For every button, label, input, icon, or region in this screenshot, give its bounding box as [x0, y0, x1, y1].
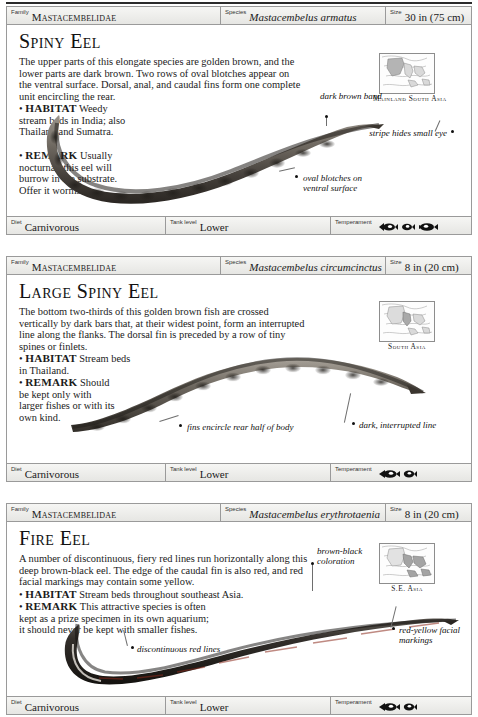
tank-level-label: Tank level	[170, 699, 197, 705]
entry-body: Large Spiny Eel The bottom two-thirds of…	[6, 275, 472, 463]
species-value: Mastacembelus circumcinctus	[249, 262, 381, 273]
habitat-block: • HABITAT Stream beds throughout southea…	[19, 589, 311, 601]
distribution-map	[379, 53, 435, 94]
temperament-icons	[378, 469, 417, 480]
species-cell: Species Mastacembelus circumcinctus	[221, 257, 386, 274]
entry-body: Fire Eel A number of discontinuous, fier…	[6, 522, 472, 696]
tank-level-cell: Tank level Lower	[166, 697, 331, 714]
page-title: Spiny Eel	[19, 30, 101, 53]
annotation-oval-blotches-on-ventral-surface: oval blotches on ventral surface	[303, 173, 389, 193]
annotation-dot	[451, 130, 454, 133]
annotation-dark-brown-band: dark brown band	[320, 91, 390, 101]
annotation-leader	[326, 118, 327, 126]
species-cell: Species Mastacembelus erythrotaenia	[221, 504, 386, 521]
tank-level-value: Lower	[200, 222, 229, 233]
species-label: Species	[225, 506, 246, 512]
diet-label: Diet	[11, 466, 22, 472]
annotation-fins-encircle-rear-half-of-body: fins encircle rear half of body	[187, 422, 297, 432]
family-label: Family	[11, 9, 29, 15]
diet-cell: Diet Carnivorous	[7, 697, 166, 714]
species-label: Species	[225, 9, 246, 15]
annotation-dot	[295, 175, 298, 178]
annotation-dot	[392, 627, 395, 630]
annotation-dark-interrupted-line: dark, interrupted line	[359, 420, 449, 430]
diet-label: Diet	[11, 699, 22, 705]
field-guide-page: Family Mastacembelidae Species Mastacemb…	[0, 0, 478, 717]
diet-cell: Diet Carnivorous	[7, 464, 166, 481]
temperament-icons	[378, 702, 417, 713]
temperament-cell: Temperament	[331, 464, 471, 481]
size-label: Size	[390, 259, 402, 265]
size-cell: Size 8 in (20 cm)	[386, 504, 471, 521]
temperament-label: Temperament	[335, 699, 372, 705]
habitat-label: HABITAT	[25, 588, 76, 600]
entry-footer-bar: Diet Carnivorous Tank level Lower Temper…	[6, 696, 472, 715]
map-caption: S.E. Asia	[379, 585, 435, 593]
top-rule	[6, 2, 472, 4]
entry-header-bar: Family Mastacembelidae Species Mastacemb…	[6, 6, 472, 25]
annotation-brown-black-coloration: brown-black coloration	[317, 546, 389, 566]
size-label: Size	[390, 506, 402, 512]
temperament-label: Temperament	[335, 219, 372, 225]
species-value: Mastacembelus erythrotaenia	[249, 509, 380, 520]
fish-group-icon	[378, 702, 400, 713]
entry-header-bar: Family Mastacembelidae Species Mastacemb…	[6, 503, 472, 522]
entry-header-bar: Family Mastacembelidae Species Mastacemb…	[6, 256, 472, 275]
tank-level-value: Lower	[200, 702, 229, 713]
temperament-label: Temperament	[335, 466, 372, 472]
diet-cell: Diet Carnivorous	[7, 217, 166, 234]
temperament-cell: Temperament	[331, 217, 471, 234]
description-text: A number of discontinuous, fiery red lin…	[19, 553, 311, 588]
annotation-dot	[352, 422, 355, 425]
species-cell: Species Mastacembelus armatus	[221, 7, 386, 24]
annotation-dot	[131, 646, 134, 649]
temperament-cell: Temperament	[331, 697, 471, 714]
tank-level-label: Tank level	[170, 219, 197, 225]
species-illustration	[59, 608, 459, 694]
family-cell: Family Mastacembelidae	[7, 7, 221, 24]
species-entry-fire-eel: Family Mastacembelidae Species Mastacemb…	[6, 503, 472, 715]
family-label: Family	[11, 506, 29, 512]
distribution-map	[379, 301, 435, 342]
entry-body: Spiny Eel The upper parts of this elonga…	[6, 25, 472, 216]
page-title: Fire Eel	[19, 527, 90, 550]
tank-level-cell: Tank level Lower	[166, 217, 331, 234]
family-cell: Family Mastacembelidae	[7, 504, 221, 521]
size-value: 8 in (20 cm)	[405, 262, 459, 273]
size-cell: Size 8 in (20 cm)	[386, 257, 471, 274]
family-value: Mastacembelidae	[32, 509, 117, 520]
size-label: Size	[390, 9, 402, 15]
species-label: Species	[225, 259, 246, 265]
family-label: Family	[11, 259, 29, 265]
fish-group-icon	[378, 469, 400, 480]
size-value: 8 in (20 cm)	[405, 509, 459, 520]
annotation-leader	[312, 565, 313, 591]
diet-value: Carnivorous	[25, 222, 79, 233]
species-entry-spiny-eel: Family Mastacembelidae Species Mastacemb…	[6, 6, 472, 235]
annotation-discontinuous-red-lines: discontinuous red lines	[137, 644, 233, 654]
diet-value: Carnivorous	[25, 702, 79, 713]
family-value: Mastacembelidae	[32, 262, 117, 273]
habitat-text: Stream beds throughout southeast Asia.	[79, 589, 243, 600]
species-illustration	[35, 93, 385, 211]
fish-group-icon	[401, 222, 415, 233]
diet-label: Diet	[11, 219, 22, 225]
annotation-red-yellow-facial-markings: red-yellow facial markings	[399, 625, 472, 645]
diet-value: Carnivorous	[25, 469, 79, 480]
fish-group-icon	[403, 702, 417, 713]
family-value: Mastacembelidae	[32, 12, 117, 23]
tank-level-value: Lower	[200, 469, 229, 480]
entry-footer-bar: Diet Carnivorous Tank level Lower Temper…	[6, 463, 472, 482]
annotation-dot	[179, 424, 182, 427]
species-value: Mastacembelus armatus	[249, 12, 356, 23]
fish-group-icon	[418, 222, 438, 233]
temperament-icons	[378, 222, 438, 233]
tank-level-cell: Tank level Lower	[166, 464, 331, 481]
family-cell: Family Mastacembelidae	[7, 257, 221, 274]
fish-group-icon	[378, 222, 398, 233]
size-value: 30 in (75 cm)	[405, 12, 465, 23]
size-cell: Size 30 in (75 cm)	[386, 7, 471, 24]
species-entry-large-spiny-eel: Family Mastacembelidae Species Mastacemb…	[6, 256, 472, 482]
tank-level-label: Tank level	[170, 466, 197, 472]
page-title: Large Spiny Eel	[19, 280, 158, 303]
